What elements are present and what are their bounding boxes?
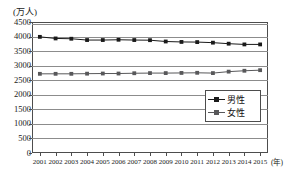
data-point-marker [148,71,152,75]
data-point-marker [38,72,42,76]
legend-line-marker-male-icon [208,95,225,104]
data-point-marker [164,71,168,75]
x-axis-unit-label: (年) [271,159,283,167]
data-point-marker [227,42,231,46]
plot-area [0,0,298,177]
data-point-marker [243,43,247,47]
data-point-marker [38,35,42,39]
data-point-marker [243,69,247,73]
data-point-marker [258,68,262,72]
legend-label-female: 女性 [227,106,245,119]
data-point-marker [54,37,58,41]
data-point-marker [101,38,105,42]
data-point-marker [211,71,215,75]
data-point-marker [195,40,199,44]
data-point-marker [195,71,199,75]
data-point-marker [180,40,184,44]
line-chart: (万人) 45004000350030002500200015001000500… [0,0,298,177]
data-point-marker [69,72,73,76]
legend-label-male: 男性 [227,93,245,106]
data-point-marker [211,41,215,45]
data-point-marker [85,38,89,42]
data-point-marker [85,72,89,76]
data-point-marker [227,70,231,74]
data-point-marker [180,71,184,75]
data-point-marker [69,37,73,41]
data-point-marker [258,43,262,47]
data-point-marker [117,72,121,76]
legend-item-male: 男性 [208,93,257,106]
legend-line-marker-female-icon [208,108,225,117]
data-point-marker [54,72,58,76]
chart-legend: 男性 女性 [205,90,261,122]
data-point-marker [164,40,168,44]
data-point-marker [132,38,136,42]
data-point-marker [101,72,105,76]
legend-item-female: 女性 [208,106,257,119]
data-point-marker [117,38,121,42]
data-point-marker [148,38,152,42]
data-point-marker [132,71,136,75]
